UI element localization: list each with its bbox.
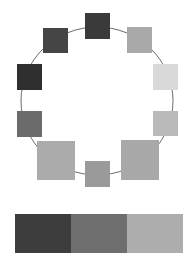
palette-segment-medium xyxy=(71,214,127,253)
swatch-left xyxy=(17,64,42,90)
swatch-right xyxy=(153,64,178,90)
palette-bar xyxy=(15,214,183,253)
swatch-bottom-right-large xyxy=(121,140,159,180)
swatch-top xyxy=(85,13,110,39)
swatch-lower-right xyxy=(153,111,178,136)
swatch-top-right xyxy=(127,27,152,53)
palette-segment-light xyxy=(127,214,183,253)
swatch-lower-left xyxy=(17,111,42,137)
swatch-top-left xyxy=(43,28,68,53)
swatch-bottom-left-large xyxy=(37,141,75,180)
palette-segment-dark xyxy=(15,214,71,253)
swatch-bottom xyxy=(85,161,110,187)
